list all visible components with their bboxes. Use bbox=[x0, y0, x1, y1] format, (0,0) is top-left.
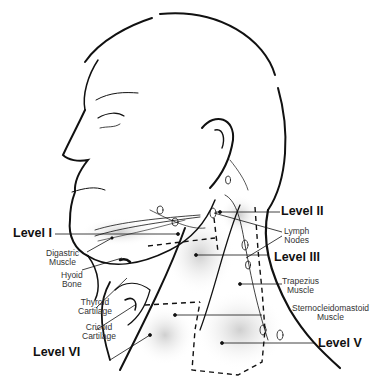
label-trapezius-muscle: Trapezius Muscle bbox=[282, 277, 319, 295]
label-level-ii: Level II bbox=[281, 204, 323, 218]
label-digastric-muscle: Digastric Muscle bbox=[46, 249, 79, 267]
label-level-i: Level I bbox=[13, 226, 52, 240]
label-cricoid-cartilage: Cricoid Cartilage bbox=[82, 323, 116, 341]
label-level-v: Level V bbox=[318, 336, 362, 350]
label-hyoid-bone: Hyoid Bone bbox=[61, 271, 83, 289]
label-level-vi: Level VI bbox=[33, 345, 80, 359]
label-lymph-nodes: Lymph Nodes bbox=[284, 227, 309, 245]
anatomy-illustration bbox=[0, 0, 383, 384]
label-level-iii: Level III bbox=[274, 250, 320, 264]
label-sternocleidomastoid-muscle: Sternocleidomastoid Muscle bbox=[292, 304, 369, 322]
neck-levels-diagram: Level I Level II Level III Level V Level… bbox=[0, 0, 383, 384]
label-thyroid-cartilage: Thyroid Cartilage bbox=[78, 298, 112, 316]
